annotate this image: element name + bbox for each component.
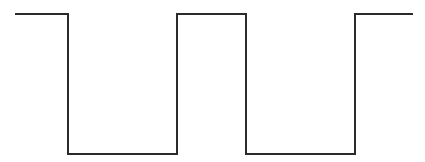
square-wave-diagram [0,0,425,162]
square-wave-line [15,14,413,154]
square-wave-graphic [0,0,425,162]
